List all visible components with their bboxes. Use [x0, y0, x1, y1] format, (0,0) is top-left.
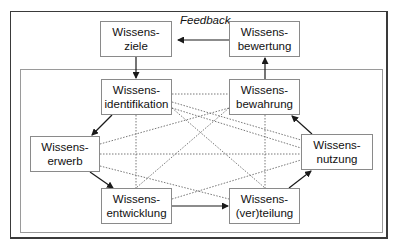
connections	[0, 0, 399, 252]
node-label-line2: bewahrung	[236, 97, 293, 111]
node-wissensnutzung: Wissens- nutzung	[301, 134, 373, 170]
node-wissensziele: Wissens- ziele	[100, 21, 172, 57]
node-label-line2: ziele	[124, 39, 148, 53]
node-label-line1: Wissens-	[241, 83, 288, 97]
node-wissensbewahrung: Wissens- bewahrung	[229, 79, 300, 115]
solid-arrows	[90, 40, 312, 206]
node-label-line2: bewertung	[238, 39, 292, 53]
node-label-line2: (ver)teilung	[236, 206, 294, 220]
node-label-line1: Wissens-	[313, 138, 360, 152]
node-label-line1: Wissens-	[241, 192, 288, 206]
node-wissensidentifikation: Wissens- identifikation	[101, 79, 172, 115]
node-label-line2: erwerb	[47, 154, 82, 168]
node-wissensverteilung: Wissens- (ver)teilung	[229, 188, 300, 224]
node-label-line2: nutzung	[317, 152, 358, 166]
node-label-line2: entwicklung	[106, 206, 166, 220]
node-wissenserwerb: Wissens- erwerb	[30, 136, 100, 172]
feedback-label: Feedback	[180, 14, 231, 26]
node-wissensentwicklung: Wissens- entwicklung	[101, 188, 172, 224]
node-label-line2: identifikation	[105, 97, 169, 111]
node-label-line1: Wissens-	[112, 25, 159, 39]
node-label-line1: Wissens-	[113, 192, 160, 206]
node-label-line1: Wissens-	[241, 25, 288, 39]
node-wissensbewertung: Wissens- bewertung	[229, 21, 300, 57]
node-label-line1: Wissens-	[41, 140, 88, 154]
node-label-line1: Wissens-	[113, 83, 160, 97]
